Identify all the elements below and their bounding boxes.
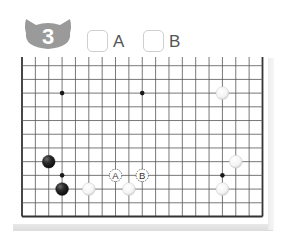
marker-b[interactable]: B bbox=[136, 169, 148, 181]
marker-a[interactable]: A bbox=[109, 169, 121, 181]
black-stone bbox=[56, 183, 69, 196]
white-stone bbox=[122, 183, 135, 196]
white-stone bbox=[216, 87, 229, 100]
white-stone bbox=[216, 183, 229, 196]
white-stone bbox=[82, 183, 95, 196]
star-point bbox=[60, 173, 65, 178]
white-stone bbox=[229, 155, 242, 168]
star-point bbox=[140, 91, 145, 96]
star-point bbox=[60, 91, 65, 96]
go-board[interactable]: AB bbox=[0, 0, 287, 238]
black-stone bbox=[42, 155, 55, 168]
svg-text:B: B bbox=[139, 170, 145, 181]
svg-text:A: A bbox=[112, 170, 119, 181]
star-point bbox=[220, 173, 225, 178]
